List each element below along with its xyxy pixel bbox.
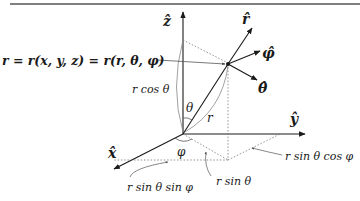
r-hat-label: r̂ (242, 11, 251, 27)
y-axis-label: ŷ (289, 111, 299, 127)
r-cos-theta-label: r cos θ (132, 83, 170, 96)
z-axis-label: ẑ (162, 13, 172, 29)
r-sin-theta-cos-phi-label: r sin θ cos φ (285, 150, 354, 163)
guide-projection-to-y (228, 134, 280, 160)
x-axis (114, 134, 183, 169)
r-sin-theta-label: r sin θ (216, 175, 251, 188)
phi-label: φ (177, 145, 186, 159)
r-cos-theta-arc (177, 40, 184, 132)
r-sin-theta-pointer (206, 152, 211, 176)
theta-label: θ (186, 101, 194, 115)
theta-angle-arc (183, 118, 192, 120)
theta-hat-label: θ̂ (258, 80, 268, 96)
r-sin-theta-sin-phi-pointer (130, 162, 168, 177)
r-sin-theta-sin-phi-label: r sin θ sin φ (127, 181, 193, 194)
r-label: r (207, 111, 214, 125)
guide-z-to-point (183, 40, 228, 63)
equation-pointer (158, 60, 225, 64)
spherical-coordinates-diagram: ẑ ŷ x̂ r̂ φ̂ θ̂ r = r(x, y, z) = r(r, θ,… (0, 0, 360, 201)
x-axis-label: x̂ (107, 145, 117, 161)
position-equation: r = r(x, y, z) = r(r, θ, φ) (2, 53, 165, 68)
phi-angle-arc (175, 138, 192, 141)
r-sin-theta-cos-phi-pointer (252, 148, 282, 155)
phi-hat-label: φ̂ (262, 45, 275, 61)
theta-hat-vector (228, 64, 257, 80)
r-vector (183, 64, 228, 134)
